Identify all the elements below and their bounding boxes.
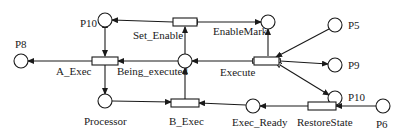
transition-set-enable[interactable] bbox=[173, 18, 197, 26]
places bbox=[14, 13, 390, 113]
label-p9: P9 bbox=[348, 59, 360, 71]
petri-net-diagram: P10 Set_Enable EnableMark P5 P8 A_Exec B… bbox=[0, 0, 407, 140]
label-being-executed: Being_executed bbox=[117, 65, 188, 77]
label-p5: P5 bbox=[348, 19, 360, 31]
label-enablemark: EnableMark bbox=[213, 25, 268, 37]
label-processor: Processor bbox=[84, 115, 127, 127]
arc-set-enable-to-p10 bbox=[112, 20, 173, 22]
arcs bbox=[28, 20, 376, 106]
diagram-svg: P10 Set_Enable EnableMark P5 P8 A_Exec B… bbox=[0, 0, 407, 140]
place-processor[interactable] bbox=[98, 94, 112, 108]
arc-execute-to-p9 bbox=[280, 61, 328, 64]
place-p10-top[interactable] bbox=[98, 13, 112, 27]
label-p8: P8 bbox=[15, 38, 27, 50]
arc-p5-to-execute bbox=[276, 29, 329, 57]
transition-b-exec[interactable] bbox=[171, 99, 199, 107]
place-p5[interactable] bbox=[328, 18, 342, 32]
label-p6: P6 bbox=[376, 118, 388, 130]
arc-processor-to-b-exec bbox=[112, 101, 171, 102]
label-b-exec: B_Exec bbox=[169, 115, 204, 127]
label-a-exec: A_Exec bbox=[56, 65, 92, 77]
place-exec-ready[interactable] bbox=[246, 99, 260, 113]
label-p10-right: P10 bbox=[348, 91, 366, 103]
transition-execute[interactable] bbox=[254, 57, 279, 65]
label-p10-top: P10 bbox=[80, 17, 98, 29]
labels: P10 Set_Enable EnableMark P5 P8 A_Exec B… bbox=[15, 17, 388, 130]
arc-exec-ready-to-b-exec bbox=[199, 103, 246, 105]
label-restorestate: RestoreState bbox=[297, 116, 353, 128]
transition-a-exec[interactable] bbox=[92, 57, 118, 65]
label-exec-ready: Exec_Ready bbox=[232, 116, 288, 128]
place-p6[interactable] bbox=[376, 99, 390, 113]
place-p9[interactable] bbox=[328, 58, 342, 72]
label-execute: Execute bbox=[220, 66, 256, 78]
place-p8[interactable] bbox=[14, 54, 28, 68]
label-set-enable: Set_Enable bbox=[133, 29, 183, 41]
arc-execute-to-p10 bbox=[280, 65, 329, 95]
transition-restorestate[interactable] bbox=[308, 102, 336, 110]
